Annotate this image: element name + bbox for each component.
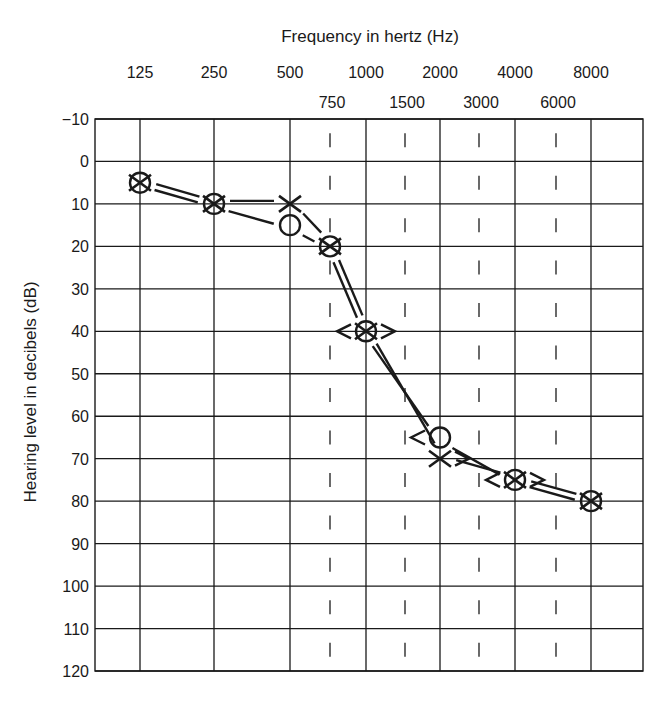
x-tick-label: 4000 (497, 64, 533, 81)
series-line (333, 262, 357, 317)
chart-grid (95, 119, 643, 671)
x-tick-label: 1500 (389, 94, 425, 111)
plot-border (95, 119, 643, 671)
y-tick-label: 50 (71, 366, 89, 383)
y-tick-label: 90 (71, 536, 89, 553)
x-tick-label: 6000 (540, 94, 576, 111)
series-line (339, 260, 363, 315)
series-line (303, 214, 321, 233)
x-tick-label: 3000 (463, 94, 499, 111)
y-tick-label: 60 (71, 408, 89, 425)
x-tick-label: 1000 (348, 64, 384, 81)
y-tick-label: 120 (62, 663, 89, 680)
x-axis-octave-tick-labels: 1252505001000200040008000 (127, 64, 609, 81)
y-tick-label: 40 (71, 323, 89, 340)
y-axis-tick-labels: −100102030405060708090100110120 (62, 111, 89, 680)
series-line (530, 487, 575, 500)
x-tick-label: 125 (127, 64, 154, 81)
x-tick-label: 250 (201, 64, 228, 81)
x-tick-label: 500 (277, 64, 304, 81)
y-axis-title: Hearing level in decibels (dB) (21, 281, 40, 502)
series-line (156, 184, 199, 196)
x-axis-title: Frequency in hertz (Hz) (281, 27, 459, 46)
y-tick-label: 0 (80, 153, 89, 170)
y-tick-label: 70 (71, 451, 89, 468)
x-axis-interoctave-tick-labels: 750150030006000 (319, 94, 576, 111)
series-line (229, 211, 274, 224)
less-than-marker-icon (411, 430, 425, 444)
y-tick-label: 110 (63, 621, 89, 638)
x-tick-label: 8000 (573, 64, 609, 81)
y-tick-label: 80 (71, 493, 89, 510)
series-line (155, 190, 198, 202)
y-tick-label: 100 (62, 578, 89, 595)
y-tick-label: 10 (71, 196, 89, 213)
y-tick-label: 30 (71, 281, 89, 298)
series-line (303, 235, 315, 241)
less-than-marker-icon (486, 473, 500, 487)
x-tick-label: 750 (319, 94, 346, 111)
x-tick-label: 2000 (422, 64, 458, 81)
audiogram-chart: Frequency in hertz (Hz) 1252505001000200… (0, 0, 669, 706)
y-tick-label: −10 (62, 111, 89, 128)
y-tick-label: 20 (71, 238, 89, 255)
